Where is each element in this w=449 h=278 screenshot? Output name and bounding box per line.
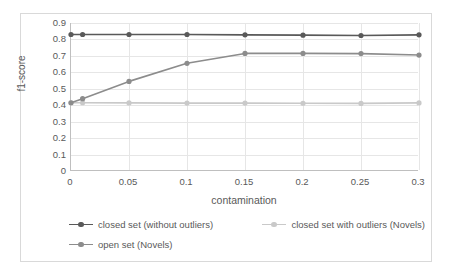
legend-marker-icon <box>69 219 93 229</box>
legend-label: closed set (without outliers) <box>98 219 213 230</box>
series-lines <box>71 23 419 171</box>
chart-container: f1-score 0.90.80.70.60.50.40.30.20.10 00… <box>20 13 432 262</box>
y-axis-tick-label: 0.1 <box>32 150 66 160</box>
data-point-marker <box>68 100 73 105</box>
legend-item-closed-set-with-outliers[interactable]: closed set with outliers (Novels) <box>262 219 425 230</box>
data-point-marker <box>126 32 131 37</box>
y-axis-tick-label: 0.2 <box>32 133 66 143</box>
data-point-marker <box>358 33 363 38</box>
data-point-marker <box>358 51 363 56</box>
y-axis-tick-label: 0.4 <box>32 100 66 110</box>
data-point-marker <box>242 100 247 105</box>
y-axis-tick-label: 0.5 <box>32 84 66 94</box>
data-point-marker <box>416 52 421 57</box>
x-axis-tick-label: 0.25 <box>335 176 385 187</box>
data-point-marker <box>242 32 247 37</box>
x-axis-tick-label: 0.05 <box>103 176 153 187</box>
x-axis-tick-label: 0.3 <box>393 176 443 187</box>
x-axis-tick-label: 0.15 <box>219 176 269 187</box>
data-point-marker <box>300 33 305 38</box>
data-point-marker <box>80 96 85 101</box>
data-point-marker <box>126 100 131 105</box>
legend-item-open-set[interactable]: open set (Novels) <box>69 239 271 250</box>
legend-marker-icon <box>69 239 93 249</box>
data-point-marker <box>184 32 189 37</box>
y-axis-tick-label: 0.9 <box>32 18 66 28</box>
y-axis-tick-label: 0.3 <box>32 117 66 127</box>
y-axis-tick-label: 0.7 <box>32 51 66 61</box>
legend-label: closed set with outliers (Novels) <box>291 219 425 230</box>
plot-area <box>70 23 418 171</box>
x-axis-tick-label: 0.1 <box>161 176 211 187</box>
series-line <box>71 53 419 102</box>
legend-item-closed-set-without-outliers[interactable]: closed set (without outliers) <box>69 219 262 230</box>
chart-legend: closed set (without outliers) closed set… <box>69 214 425 254</box>
data-point-marker <box>184 61 189 66</box>
data-point-marker <box>80 32 85 37</box>
data-point-marker <box>416 100 421 105</box>
data-point-marker <box>126 79 131 84</box>
data-point-marker <box>300 101 305 106</box>
y-axis-title: f1-score <box>16 55 27 91</box>
x-axis-title: contamination <box>70 194 418 206</box>
legend-marker-icon <box>262 219 286 229</box>
x-axis-tick-label: 0 <box>45 176 95 187</box>
data-point-marker <box>358 101 363 106</box>
data-point-marker <box>416 32 421 37</box>
data-point-marker <box>184 100 189 105</box>
legend-label: open set (Novels) <box>98 239 172 250</box>
legend-row: closed set (without outliers) closed set… <box>69 214 425 234</box>
legend-row: open set (Novels) <box>69 234 425 254</box>
data-point-marker <box>300 51 305 56</box>
gridline <box>419 23 420 170</box>
data-point-marker <box>242 51 247 56</box>
data-point-marker <box>68 32 73 37</box>
x-axis-tick-label: 0.2 <box>277 176 327 187</box>
y-axis-tick-label: 0.8 <box>32 34 66 44</box>
y-axis-tick-label: 0 <box>32 166 66 176</box>
y-axis-tick-label: 0.6 <box>32 67 66 77</box>
